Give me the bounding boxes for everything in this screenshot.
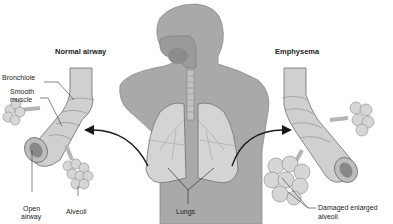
open-airway-label-line1: Open — [23, 205, 40, 213]
alveoli-label: Alveoli — [66, 208, 87, 216]
smooth-muscle-label-line2: muscle — [10, 96, 32, 104]
lungs-label: Lungs — [176, 208, 195, 216]
diagram-canvas: Normal airway Emphysema Bronchiole Smoot… — [0, 0, 393, 224]
arrow-to-normal — [84, 125, 148, 166]
human-torso — [120, 4, 269, 224]
smooth-muscle-label-line1: Smooth — [10, 88, 34, 96]
normal-airway-title: Normal airway — [55, 47, 106, 56]
damaged-alveoli-label-line2: alveoli — [318, 213, 338, 221]
emphysema-illustration — [264, 68, 374, 208]
open-airway-label-line2: airway — [21, 213, 41, 221]
emphysema-title: Emphysema — [275, 47, 319, 56]
bronchiole-label: Bronchiole — [2, 74, 35, 82]
diagram-illustration — [0, 0, 393, 224]
damaged-alveoli-label-line1: Damaged enlarged — [318, 204, 378, 212]
